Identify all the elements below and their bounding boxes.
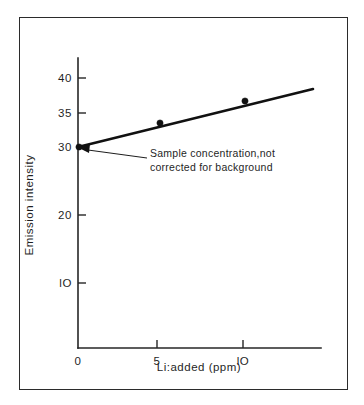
- x-axis-title: Li:added (ppm): [157, 361, 241, 373]
- y-tick-label-35: 35: [50, 107, 72, 119]
- y-axis-title: Emission intensity: [23, 154, 35, 255]
- figure-standard-additions-plot: 40 35 30 20 lO 0 5 lO Li:added (ppm) Emi…: [0, 0, 364, 405]
- annotation-sample-concentration: Sample concentration,not corrected for b…: [150, 147, 275, 174]
- y-tick-label-30: 30: [50, 141, 72, 153]
- y-tick-label-20: 20: [50, 209, 72, 221]
- annotation-line-1: Sample concentration,not: [150, 147, 275, 161]
- annotation-line-2: corrected for background: [150, 161, 275, 175]
- y-tick-label-10: lO: [50, 277, 72, 289]
- y-tick-label-40: 40: [50, 72, 72, 84]
- x-tick-label-0: 0: [75, 355, 82, 367]
